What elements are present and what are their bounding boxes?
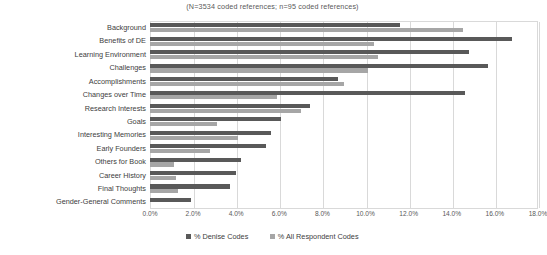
category-label: Accomplishments <box>89 75 146 88</box>
legend-label: % Denise Codes <box>194 232 248 241</box>
bar-all-respondent[interactable] <box>150 136 238 140</box>
bar-denise[interactable] <box>150 77 338 81</box>
bar-denise[interactable] <box>150 144 266 148</box>
x-axis-tick-label: 16.0% <box>486 210 505 217</box>
legend-swatch-icon <box>186 234 191 239</box>
bar-row: Background <box>150 21 538 34</box>
x-axis-tick-label: 12.0% <box>399 210 418 217</box>
legend-item-all-respondent[interactable]: % All Respondent Codes <box>270 232 358 241</box>
legend-label: % All Respondent Codes <box>278 232 359 241</box>
x-axis-tick-label: 4.0% <box>229 210 244 217</box>
legend-item-denise[interactable]: % Denise Codes <box>186 232 248 241</box>
bar-denise[interactable] <box>150 64 488 68</box>
bar-row: Others for Book <box>150 155 538 168</box>
bar-all-respondent[interactable] <box>150 95 277 99</box>
x-axis: 0.0%2.0%4.0%6.0%8.0%10.0%12.0%14.0%16.0%… <box>150 210 538 224</box>
category-label: Background <box>107 21 146 34</box>
x-axis-tick-label: 0.0% <box>142 210 157 217</box>
category-label: Others for Book <box>95 155 146 168</box>
bar-denise[interactable] <box>150 158 241 162</box>
bar-all-respondent[interactable] <box>150 162 174 166</box>
bar-row: Learning Environment <box>150 48 538 61</box>
bar-denise[interactable] <box>150 37 512 41</box>
bar-row: Gender-General Comments <box>150 195 538 208</box>
bar-denise[interactable] <box>150 50 469 54</box>
bar-denise[interactable] <box>150 171 236 175</box>
gridline <box>539 22 540 208</box>
bar-denise[interactable] <box>150 117 281 121</box>
chart-legend: % Denise Codes % All Respondent Codes <box>0 232 545 241</box>
bar-row: Final Thoughts <box>150 182 538 195</box>
bar-row: Research Interests <box>150 102 538 115</box>
bar-denise[interactable] <box>150 198 191 202</box>
x-axis-tick-label: 2.0% <box>186 210 201 217</box>
bar-row: Challenges <box>150 61 538 74</box>
x-axis-tick-label: 18.0% <box>529 210 547 217</box>
bar-all-respondent[interactable] <box>150 28 463 32</box>
x-axis-tick-label: 10.0% <box>356 210 375 217</box>
bar-denise[interactable] <box>150 131 271 135</box>
bar-all-respondent[interactable] <box>150 55 378 59</box>
category-label: Challenges <box>109 61 146 74</box>
bar-all-respondent[interactable] <box>150 176 176 180</box>
bar-denise[interactable] <box>150 23 400 27</box>
x-axis-tick-label: 14.0% <box>442 210 461 217</box>
category-label: Changes over Time <box>83 88 146 101</box>
x-axis-tick-label: 8.0% <box>315 210 330 217</box>
category-label: Interesting Memories <box>78 128 146 141</box>
category-label: Final Thoughts <box>98 182 146 195</box>
bar-row: Accomplishments <box>150 75 538 88</box>
category-label: Benefits of DE <box>99 34 146 47</box>
bar-all-respondent[interactable] <box>150 82 344 86</box>
bar-row: Benefits of DE <box>150 34 538 47</box>
bar-denise[interactable] <box>150 91 465 95</box>
category-label: Learning Environment <box>75 48 146 61</box>
legend-swatch-icon <box>270 234 275 239</box>
bar-all-respondent[interactable] <box>150 189 178 193</box>
bar-all-respondent[interactable] <box>150 122 217 126</box>
bar-all-respondent[interactable] <box>150 68 368 72</box>
bar-row: Goals <box>150 115 538 128</box>
bar-all-respondent[interactable] <box>150 149 210 153</box>
bar-all-respondent[interactable] <box>150 42 374 46</box>
chart-title: (N=3534 coded references; n=95 coded ref… <box>0 2 545 11</box>
bar-row: Interesting Memories <box>150 128 538 141</box>
category-label: Career History <box>99 169 146 182</box>
bar-denise[interactable] <box>150 104 310 108</box>
bar-denise[interactable] <box>150 184 230 188</box>
x-axis-tick-label: 6.0% <box>272 210 287 217</box>
category-label: Research Interests <box>85 102 146 115</box>
category-label: Goals <box>127 115 146 128</box>
bar-row: Changes over Time <box>150 88 538 101</box>
bar-all-respondent[interactable] <box>150 109 301 113</box>
category-label: Gender-General Comments <box>56 195 146 208</box>
bar-rows: BackgroundBenefits of DELearning Environ… <box>150 21 538 209</box>
category-label: Early Founders <box>97 142 146 155</box>
bar-row: Career History <box>150 169 538 182</box>
bar-row: Early Founders <box>150 142 538 155</box>
